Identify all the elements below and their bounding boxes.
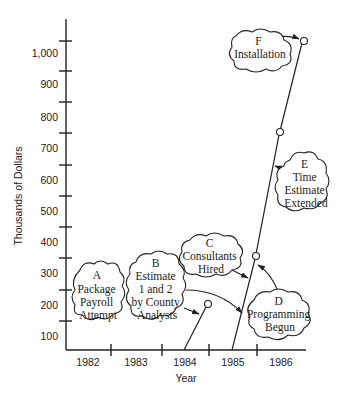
y-axis — [59, 19, 72, 350]
svg-text:200: 200 — [40, 299, 58, 311]
svg-text:600: 600 — [40, 174, 58, 186]
svg-text:1984: 1984 — [173, 356, 197, 368]
svg-text:1982: 1982 — [76, 356, 100, 368]
cloud-D: D Programming Begun — [247, 289, 313, 340]
svg-text:700: 700 — [40, 142, 58, 154]
svg-text:1,000: 1,000 — [32, 47, 58, 59]
cloud-A: A Package Payroll Attempt — [72, 261, 125, 322]
cloud-E: E Time Estimate Extended — [275, 152, 329, 211]
svg-text:500: 500 — [40, 205, 58, 217]
cloud-B: B Estimate 1 and 2 by County Analysts — [126, 251, 186, 322]
svg-text:100: 100 — [40, 330, 58, 342]
x-tick-labels: 1982 1983 1984 1985 1986 — [76, 356, 293, 368]
svg-text:1985: 1985 — [221, 356, 245, 368]
svg-text:1986: 1986 — [269, 356, 293, 368]
svg-text:800: 800 — [40, 111, 58, 123]
svg-text:400: 400 — [40, 236, 58, 248]
svg-text:1983: 1983 — [124, 356, 148, 368]
svg-text:900: 900 — [40, 78, 58, 90]
cloud-F: F Installation — [229, 29, 291, 72]
chart: 1,000 900 800 700 600 500 400 300 200 10… — [0, 0, 349, 396]
y-axis-title: Thousands of Dollars — [12, 146, 24, 245]
y-tick-labels: 1,000 900 800 700 600 500 400 300 200 10… — [32, 47, 58, 342]
x-axis-title: Year — [175, 372, 197, 384]
svg-text:300: 300 — [40, 267, 58, 279]
